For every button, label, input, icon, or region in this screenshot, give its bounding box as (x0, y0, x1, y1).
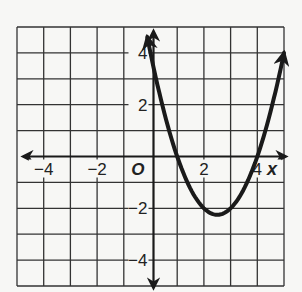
parabola-line (147, 37, 284, 215)
parabola-curve (147, 37, 284, 215)
x-tick-label: −2 (87, 160, 106, 179)
x-axis-label: x (266, 159, 278, 179)
y-tick-label: 2 (138, 96, 147, 115)
y-tick-label: −2 (128, 199, 147, 218)
y-tick-label: −4 (128, 251, 147, 270)
coordinate-plane: −4−22442−2−4Ox (0, 0, 302, 292)
origin-label: O (131, 160, 144, 179)
y-tick-label: 4 (138, 44, 147, 63)
x-tick-label: −4 (34, 160, 53, 179)
x-tick-label: 2 (199, 160, 208, 179)
